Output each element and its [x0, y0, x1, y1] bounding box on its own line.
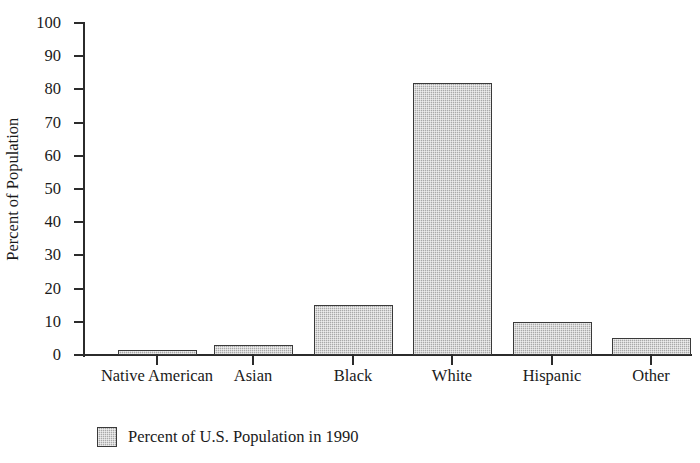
- y-axis-tick: 20: [74, 288, 85, 290]
- y-axis-tick-label: 80: [45, 81, 62, 98]
- y-axis-tick: 50: [74, 188, 85, 190]
- y-axis-tick: 30: [74, 254, 85, 256]
- y-axis-tick-label: 60: [45, 148, 62, 165]
- y-axis-title: Percent of Population: [2, 23, 24, 355]
- x-axis-tick: [352, 354, 354, 365]
- x-axis-tick: [252, 354, 254, 365]
- y-axis-tick-label: 0: [53, 347, 61, 364]
- x-axis-tick: [156, 354, 158, 365]
- y-axis-tick-label: 50: [45, 181, 62, 198]
- x-axis-tick-label: Hispanic: [523, 368, 582, 385]
- bar-chart-figure: Percent of Population 010203040506070809…: [0, 0, 700, 463]
- y-axis-tick: 40: [74, 221, 85, 223]
- y-axis-tick: 80: [74, 88, 85, 90]
- x-axis-tick-label: Native American: [101, 368, 213, 385]
- y-axis-tick-label: 30: [45, 247, 62, 264]
- y-axis-title-text: Percent of Population: [5, 118, 22, 261]
- legend-label: Percent of U.S. Population in 1990: [128, 429, 359, 446]
- y-axis-tick: 60: [74, 155, 85, 157]
- x-axis-tick-label: Asian: [234, 368, 273, 385]
- y-axis-tick-label: 100: [36, 15, 61, 32]
- bar: [513, 322, 592, 355]
- bar: [413, 83, 492, 355]
- y-axis-tick: 90: [74, 55, 85, 57]
- plot-area: 0102030405060708090100: [83, 23, 700, 355]
- x-axis-tick-label: Black: [334, 368, 373, 385]
- y-axis-tick: 100: [74, 22, 85, 24]
- y-axis-tick: 70: [74, 122, 85, 124]
- x-axis-tick-label: Other: [632, 368, 670, 385]
- x-axis-tick-label: White: [432, 368, 472, 385]
- y-axis-tick-label: 20: [45, 280, 62, 297]
- x-axis-tick: [650, 354, 652, 365]
- y-axis-tick-label: 90: [45, 48, 62, 65]
- bar: [314, 305, 393, 355]
- y-axis-tick: 0: [74, 354, 85, 356]
- bar: [612, 338, 691, 355]
- chart-legend: Percent of U.S. Population in 1990: [97, 427, 359, 447]
- y-axis-tick-label: 70: [45, 114, 62, 131]
- y-axis-tick-label: 40: [45, 214, 62, 231]
- legend-swatch-icon: [97, 427, 117, 447]
- x-axis-tick: [551, 354, 553, 365]
- y-axis-tick: 10: [74, 321, 85, 323]
- y-axis-tick-label: 10: [45, 314, 62, 331]
- x-axis-tick: [451, 354, 453, 365]
